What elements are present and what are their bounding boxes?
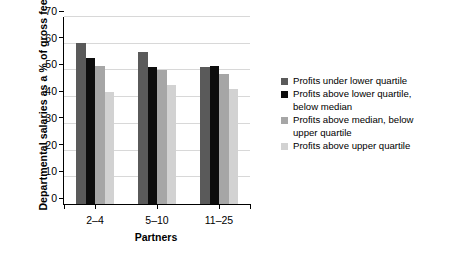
legend-label: Profits under lower quartile (293, 75, 407, 87)
legend-swatch-icon (281, 143, 288, 150)
y-axis-tick: 70 (30, 5, 64, 17)
y-axis-tick: 40 (30, 85, 64, 97)
y-tick-mark (59, 64, 64, 65)
y-tick-label: 40 (33, 85, 57, 97)
y-tick-mark (59, 37, 64, 38)
y-tick-mark (59, 144, 64, 145)
bar (200, 67, 210, 204)
y-tick-label: 70 (33, 5, 57, 17)
bar-group (138, 17, 176, 204)
legend-item[interactable]: Profits above upper quartile (281, 140, 449, 152)
chart-legend: Profits under lower quartileProfits abov… (281, 75, 449, 153)
bar (157, 70, 167, 204)
y-tick-mark (59, 11, 64, 12)
y-tick-mark (59, 171, 64, 172)
y-tick-label: 50 (33, 58, 57, 70)
bar (229, 89, 239, 204)
y-tick-mark (59, 117, 64, 118)
x-tick-mark (219, 204, 220, 209)
legend-item[interactable]: Profits above lower quartile, below medi… (281, 88, 449, 113)
y-tick-label: 10 (33, 165, 57, 177)
bar (95, 66, 105, 204)
y-tick-mark (59, 91, 64, 92)
x-tick-label: 5–10 (127, 214, 187, 226)
bar (167, 85, 177, 204)
x-tick-label: 11–25 (189, 214, 249, 226)
legend-label: Profits above upper quartile (293, 140, 410, 152)
bar (210, 66, 220, 204)
x-tick-mark (157, 204, 158, 209)
x-tick-label: 2–4 (65, 214, 125, 226)
legend-swatch-icon (281, 78, 288, 85)
y-axis-tick: 30 (30, 112, 64, 124)
x-tick-mark (95, 204, 96, 209)
legend-item[interactable]: Profits under lower quartile (281, 75, 449, 87)
legend-swatch-icon (281, 117, 288, 124)
bar-chart-figure: Departmental salaries as a % of gross fe… (0, 0, 451, 259)
x-axis-boundary-tick (250, 204, 251, 209)
y-tick-label: 30 (33, 112, 57, 124)
legend-label: Profits above lower quartile, below medi… (293, 88, 411, 113)
bar (148, 67, 158, 204)
y-axis-tick: 20 (30, 139, 64, 151)
bar (76, 43, 86, 204)
x-axis-boundary-tick (64, 204, 65, 209)
bar (86, 58, 96, 204)
legend-item[interactable]: Profits above median, below upper quarti… (281, 114, 449, 139)
y-tick-label: 20 (33, 139, 57, 151)
y-tick-label: 60 (33, 32, 57, 44)
bar-group (200, 17, 238, 204)
y-axis-tick: 10 (30, 165, 64, 177)
y-axis-tick: 50 (30, 58, 64, 70)
bar-group (76, 17, 114, 204)
bar (105, 92, 115, 204)
y-axis-tick: 0 (30, 192, 64, 204)
bar (138, 52, 148, 204)
y-tick-mark (59, 198, 64, 199)
y-axis-tick: 60 (30, 32, 64, 44)
y-tick-label: 0 (33, 192, 57, 204)
legend-swatch-icon (281, 91, 288, 98)
plot-area: 0102030405060702–45–1011–25 (63, 17, 250, 205)
legend-label: Profits above median, below upper quarti… (293, 114, 414, 139)
x-axis-title: Partners (63, 231, 249, 243)
bar (219, 74, 229, 204)
